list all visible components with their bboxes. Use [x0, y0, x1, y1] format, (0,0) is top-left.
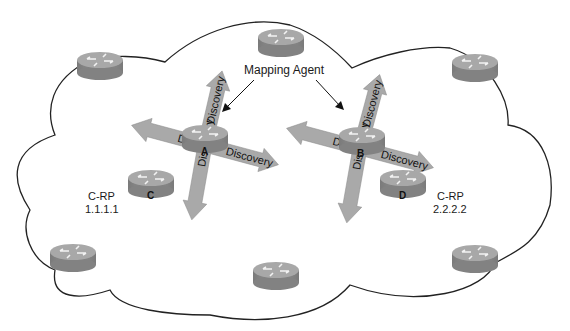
edge-router-top-left [77, 52, 123, 80]
edge-router-bottom-center [253, 262, 299, 290]
edge-router-top-center [258, 29, 304, 57]
crp-c-address: 1.1.1.1 [85, 203, 119, 215]
edge-router-top-right [452, 54, 498, 82]
svg-text:C: C [147, 190, 154, 201]
mapping-agent-label: Mapping Agent [244, 63, 325, 77]
crp-c-role: C-RP [88, 190, 115, 202]
svg-text:D: D [399, 190, 406, 201]
crp-d-address: 2.2.2.2 [433, 203, 467, 215]
edge-router-bottom-right [452, 245, 498, 273]
svg-text:A: A [201, 146, 208, 157]
edge-router-bottom-left [50, 244, 96, 272]
crp-d-role: C-RP [437, 190, 464, 202]
svg-text:B: B [357, 148, 364, 159]
auto-rp-discovery-diagram: Discovery Discovery Discovery Discovery … [0, 0, 570, 331]
